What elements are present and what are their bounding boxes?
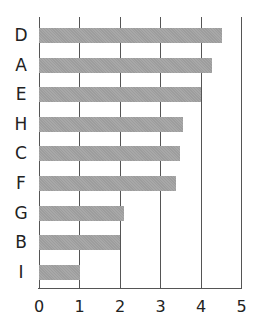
x-tick-label: 1 xyxy=(70,297,90,316)
y-category-label: F xyxy=(10,176,32,191)
x-tick-label: 3 xyxy=(151,297,171,316)
x-tick-label: 5 xyxy=(232,297,252,316)
bar-D xyxy=(39,28,222,43)
y-category-label: B xyxy=(10,235,32,250)
bar-E xyxy=(39,87,201,102)
x-tick-label: 0 xyxy=(29,297,49,316)
y-category-label: E xyxy=(10,87,32,102)
bar-G xyxy=(39,206,124,221)
bar-F xyxy=(39,176,176,191)
x-tick-label: 2 xyxy=(110,297,130,316)
y-category-label: C xyxy=(10,146,32,161)
bar-I xyxy=(39,265,80,280)
y-category-label: D xyxy=(10,28,32,43)
bar-chart: 012345DAEHCFGBI xyxy=(0,0,267,328)
bar-B xyxy=(39,235,120,250)
bar-C xyxy=(39,146,180,161)
y-category-label: H xyxy=(10,117,32,132)
x-axis-line xyxy=(38,288,242,289)
bar-H xyxy=(39,117,183,132)
x-tick-label: 4 xyxy=(191,297,211,316)
bar-A xyxy=(39,58,212,73)
gridline-5 xyxy=(241,17,242,289)
y-category-label: I xyxy=(10,265,32,280)
y-category-label: A xyxy=(10,58,32,73)
y-category-label: G xyxy=(10,206,32,221)
